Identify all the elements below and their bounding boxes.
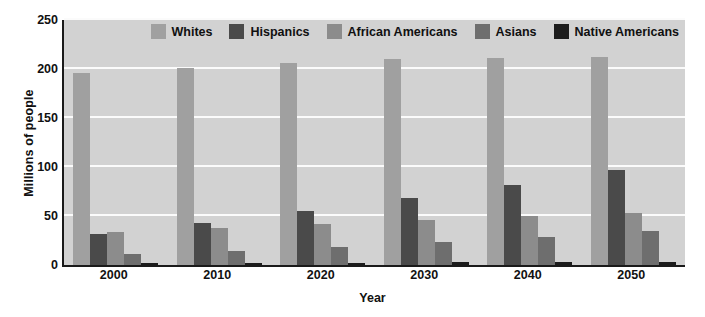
bar[interactable]: [418, 220, 435, 265]
x-axis-title: Year: [62, 291, 683, 305]
bar-group: [73, 20, 158, 265]
bar[interactable]: [504, 185, 521, 265]
bar-group: [487, 20, 572, 265]
plot-area: WhitesHispanicsAfrican AmericansAsiansNa…: [62, 20, 685, 267]
bar-group: [591, 20, 676, 265]
bar[interactable]: [245, 263, 262, 265]
bar[interactable]: [348, 263, 365, 265]
bar-group: [280, 20, 365, 265]
bar[interactable]: [591, 57, 608, 265]
bar[interactable]: [521, 216, 538, 265]
bar[interactable]: [555, 262, 572, 265]
x-tick-label: 2040: [493, 268, 563, 282]
y-tick-label: 50: [24, 210, 58, 223]
bar[interactable]: [297, 211, 314, 265]
bar[interactable]: [73, 73, 90, 265]
bar[interactable]: [452, 262, 469, 265]
x-tick-label: 2000: [79, 268, 149, 282]
bars-layer: [64, 20, 685, 265]
bar[interactable]: [90, 234, 107, 265]
bar[interactable]: [608, 170, 625, 265]
bar[interactable]: [141, 263, 158, 265]
bar[interactable]: [435, 242, 452, 265]
bar[interactable]: [177, 68, 194, 265]
bar[interactable]: [194, 223, 211, 265]
population-projection-bar-chart: Millions of people 050100150200250 White…: [0, 0, 705, 317]
bar[interactable]: [642, 231, 659, 265]
bar[interactable]: [280, 63, 297, 265]
bar[interactable]: [401, 198, 418, 265]
bar[interactable]: [124, 254, 141, 265]
y-tick-label: 100: [24, 161, 58, 174]
bar[interactable]: [659, 262, 676, 265]
bar[interactable]: [538, 237, 555, 265]
x-tick-label: 2030: [389, 268, 459, 282]
bar[interactable]: [228, 251, 245, 265]
bar[interactable]: [384, 59, 401, 265]
bar[interactable]: [314, 224, 331, 265]
bar[interactable]: [331, 247, 348, 265]
bar[interactable]: [625, 213, 642, 265]
x-tick-label: 2010: [182, 268, 252, 282]
x-tick-label: 2020: [286, 268, 356, 282]
bar-group: [384, 20, 469, 265]
bar[interactable]: [211, 228, 228, 265]
bar[interactable]: [487, 58, 504, 265]
x-tick-label: 2050: [596, 268, 666, 282]
y-tick-label: 200: [24, 63, 58, 76]
bar-group: [177, 20, 262, 265]
y-tick-label: 250: [24, 14, 58, 27]
y-axis-tick-labels: 050100150200250: [18, 0, 58, 317]
x-axis-tick-labels: 200020102020203020402050: [62, 268, 683, 288]
y-tick-label: 0: [24, 259, 58, 272]
y-tick-label: 150: [24, 112, 58, 125]
bar[interactable]: [107, 232, 124, 265]
